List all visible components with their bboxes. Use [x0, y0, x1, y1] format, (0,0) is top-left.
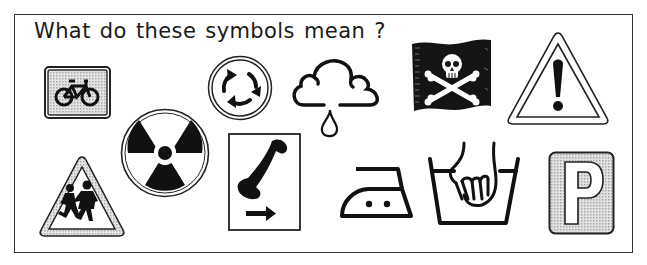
hand-wash-icon — [426, 141, 522, 229]
skull-crossbones-flag-icon — [411, 38, 493, 113]
telephone-direction-sign-icon — [228, 133, 301, 231]
roundabout-sign-icon — [207, 55, 273, 121]
warning-exclamation-icon — [506, 31, 610, 126]
parking-sign-icon — [548, 151, 615, 235]
radiation-hazard-icon — [120, 108, 210, 198]
cycle-route-sign-icon — [44, 66, 111, 119]
iron-two-dots-icon — [338, 165, 416, 221]
children-crossing-sign-icon — [38, 155, 126, 239]
worksheet-title: What do these symbols mean ? — [34, 19, 386, 43]
rain-cloud-icon — [290, 58, 384, 140]
